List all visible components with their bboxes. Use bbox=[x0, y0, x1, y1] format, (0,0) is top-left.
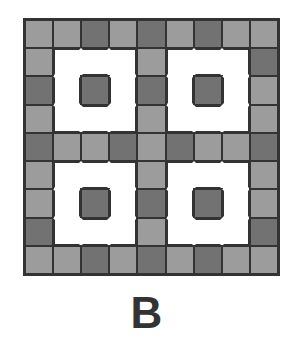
empty-cell bbox=[53, 189, 81, 217]
empty-cell bbox=[53, 161, 81, 189]
empty-cell bbox=[222, 48, 250, 76]
empty-cell bbox=[109, 48, 137, 76]
dark-tile bbox=[136, 75, 166, 105]
light-tile bbox=[136, 217, 166, 247]
light-tile bbox=[165, 19, 195, 49]
empty-cell bbox=[166, 105, 194, 133]
light-tile bbox=[80, 132, 110, 162]
dark-tile bbox=[193, 75, 223, 105]
dark-tile bbox=[193, 19, 223, 49]
empty-cell bbox=[194, 48, 222, 76]
dark-tile bbox=[80, 19, 110, 49]
dark-tile bbox=[136, 188, 166, 218]
light-tile bbox=[221, 132, 251, 162]
empty-cell bbox=[109, 76, 137, 104]
light-tile bbox=[249, 160, 279, 190]
empty-cell bbox=[222, 189, 250, 217]
light-tile bbox=[24, 47, 54, 77]
light-tile bbox=[165, 245, 195, 275]
empty-cell bbox=[194, 105, 222, 133]
empty-cell bbox=[109, 218, 137, 246]
empty-cell bbox=[166, 48, 194, 76]
light-tile bbox=[24, 245, 54, 275]
dark-tile bbox=[80, 188, 110, 218]
empty-cell bbox=[166, 218, 194, 246]
empty-cell bbox=[53, 105, 81, 133]
light-tile bbox=[24, 188, 54, 218]
empty-cell bbox=[166, 76, 194, 104]
empty-cell bbox=[81, 48, 109, 76]
light-tile bbox=[24, 160, 54, 190]
light-tile bbox=[136, 160, 166, 190]
light-tile bbox=[221, 245, 251, 275]
empty-cell bbox=[53, 48, 81, 76]
empty-cell bbox=[109, 105, 137, 133]
light-tile bbox=[52, 132, 82, 162]
light-tile bbox=[52, 19, 82, 49]
dark-tile bbox=[80, 75, 110, 105]
light-tile bbox=[249, 75, 279, 105]
empty-cell bbox=[166, 161, 194, 189]
dark-tile bbox=[165, 132, 195, 162]
dark-tile bbox=[249, 47, 279, 77]
dark-tile bbox=[136, 245, 166, 275]
empty-cell bbox=[109, 161, 137, 189]
dark-tile bbox=[24, 75, 54, 105]
light-tile bbox=[249, 104, 279, 134]
light-tile bbox=[193, 132, 223, 162]
empty-cell bbox=[222, 161, 250, 189]
dark-tile bbox=[24, 217, 54, 247]
empty-cell bbox=[194, 161, 222, 189]
empty-cell bbox=[222, 218, 250, 246]
dark-tile bbox=[249, 217, 279, 247]
light-tile bbox=[52, 245, 82, 275]
light-tile bbox=[249, 188, 279, 218]
light-tile bbox=[24, 104, 54, 134]
dark-tile bbox=[24, 132, 54, 162]
light-tile bbox=[136, 132, 166, 162]
light-tile bbox=[136, 47, 166, 77]
light-tile bbox=[108, 19, 138, 49]
empty-cell bbox=[194, 218, 222, 246]
empty-cell bbox=[222, 76, 250, 104]
figure-label: B bbox=[0, 288, 293, 338]
empty-cell bbox=[53, 218, 81, 246]
light-tile bbox=[249, 19, 279, 49]
dark-tile bbox=[136, 19, 166, 49]
empty-cell bbox=[109, 189, 137, 217]
light-tile bbox=[136, 104, 166, 134]
empty-cell bbox=[166, 189, 194, 217]
empty-cell bbox=[53, 76, 81, 104]
dark-tile bbox=[193, 188, 223, 218]
light-tile bbox=[221, 19, 251, 49]
dark-tile bbox=[80, 245, 110, 275]
light-tile bbox=[249, 245, 279, 275]
light-tile bbox=[108, 245, 138, 275]
tile-grid bbox=[23, 18, 280, 276]
dark-tile bbox=[249, 132, 279, 162]
empty-cell bbox=[81, 161, 109, 189]
dark-tile bbox=[193, 245, 223, 275]
empty-cell bbox=[222, 105, 250, 133]
empty-cell bbox=[81, 218, 109, 246]
empty-cell bbox=[81, 105, 109, 133]
dark-tile bbox=[108, 132, 138, 162]
light-tile bbox=[24, 19, 54, 49]
